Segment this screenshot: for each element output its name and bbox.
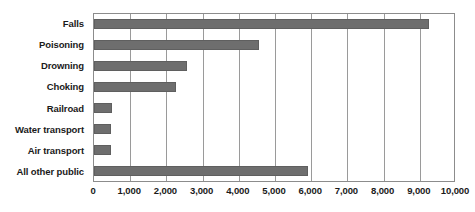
x-tick-label: 8,000 [371, 185, 394, 196]
bars-layer [94, 14, 454, 181]
category-label: Water transport [0, 119, 88, 140]
x-tick-label: 6,000 [299, 185, 322, 196]
bar [94, 103, 112, 113]
bar-row [94, 160, 454, 181]
x-tick-label: 1,000 [118, 185, 141, 196]
bar [94, 124, 111, 134]
x-tick-label: 0 [90, 185, 95, 196]
category-label: Drowning [0, 55, 88, 76]
x-tick-label: 4,000 [226, 185, 249, 196]
category-axis: FallsPoisoningDrowningChokingRailroadWat… [0, 13, 88, 182]
bar [94, 145, 111, 155]
x-tick-label: 3,000 [190, 185, 213, 196]
bar-row [94, 56, 454, 77]
category-label: Choking [0, 76, 88, 97]
category-label: Falls [0, 13, 88, 34]
x-tick-label: 2,000 [154, 185, 177, 196]
x-tick-label: 9,000 [407, 185, 430, 196]
category-label: Railroad [0, 98, 88, 119]
plot-area [93, 13, 455, 182]
bar-row [94, 77, 454, 98]
bar [94, 19, 429, 29]
bar-row [94, 139, 454, 160]
category-label: All other public [0, 161, 88, 182]
category-label: Air transport [0, 140, 88, 161]
bar-row [94, 118, 454, 139]
x-tick-label: 7,000 [335, 185, 358, 196]
category-label: Poisoning [0, 34, 88, 55]
bar-row [94, 98, 454, 119]
bar-row [94, 35, 454, 56]
bar-row [94, 14, 454, 35]
bar-chart: FallsPoisoningDrowningChokingRailroadWat… [0, 0, 475, 212]
bar [94, 61, 187, 71]
value-axis: 01,0002,0003,0004,0005,0006,0007,0008,00… [93, 183, 455, 205]
bar [94, 40, 259, 50]
x-tick-label: 5,000 [262, 185, 285, 196]
bar [94, 82, 176, 92]
bar [94, 166, 308, 176]
x-tick-label: 10,000 [441, 185, 469, 196]
